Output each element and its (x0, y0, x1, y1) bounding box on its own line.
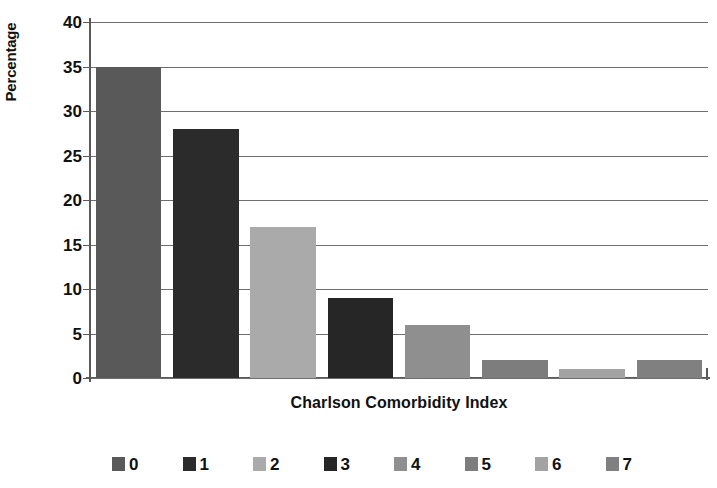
legend-label: 1 (200, 456, 209, 473)
legend-swatch-icon (394, 457, 407, 471)
legend-item-4[interactable]: 4 (394, 456, 420, 473)
y-tick-label: 40 (38, 14, 82, 31)
y-tick-mark (83, 378, 91, 379)
legend-label: 4 (411, 456, 420, 473)
legend-label: 2 (270, 456, 279, 473)
bar-6 (559, 369, 624, 378)
legend-label: 3 (341, 456, 350, 473)
legend-swatch-icon (183, 457, 196, 471)
bar-chart: Percentage 0510152025303540 Charlson Com… (0, 0, 717, 488)
y-tick-label: 25 (38, 147, 82, 164)
legend-item-1[interactable]: 1 (183, 456, 209, 473)
legend-swatch-icon (112, 457, 125, 471)
legend-item-7[interactable]: 7 (606, 456, 632, 473)
gridline (90, 378, 708, 379)
bar-series (90, 22, 708, 378)
y-tick-label: 5 (38, 325, 82, 342)
legend-label: 0 (129, 456, 138, 473)
x-axis-title: Charlson Comorbidity Index (90, 394, 708, 412)
bar-2 (250, 227, 315, 378)
bar-1 (173, 129, 238, 378)
legend-label: 6 (552, 456, 561, 473)
legend-item-6[interactable]: 6 (535, 456, 561, 473)
y-axis-tick-labels: 0510152025303540 (38, 0, 82, 400)
y-tick-label: 15 (38, 236, 82, 253)
legend-item-0[interactable]: 0 (112, 456, 138, 473)
legend-item-2[interactable]: 2 (253, 456, 279, 473)
bar-3 (328, 298, 393, 378)
y-tick-label: 35 (38, 58, 82, 75)
y-tick-label: 30 (38, 103, 82, 120)
legend-label: 5 (482, 456, 491, 473)
bar-4 (405, 325, 470, 378)
legend-swatch-icon (253, 457, 266, 471)
bar-5 (482, 360, 547, 378)
bar-0 (96, 67, 161, 379)
legend-swatch-icon (465, 457, 478, 471)
y-axis-title: Percentage (2, 0, 24, 142)
legend-swatch-icon (535, 457, 548, 471)
chart-legend: 01234567 (112, 452, 632, 476)
legend-swatch-icon (324, 457, 337, 471)
legend-swatch-icon (606, 457, 619, 471)
y-tick-label: 10 (38, 281, 82, 298)
legend-label: 7 (623, 456, 632, 473)
plot-area (90, 22, 708, 378)
y-tick-label: 20 (38, 192, 82, 209)
y-tick-label: 0 (38, 370, 82, 387)
legend-item-5[interactable]: 5 (465, 456, 491, 473)
bar-7 (637, 360, 702, 378)
legend-item-3[interactable]: 3 (324, 456, 350, 473)
